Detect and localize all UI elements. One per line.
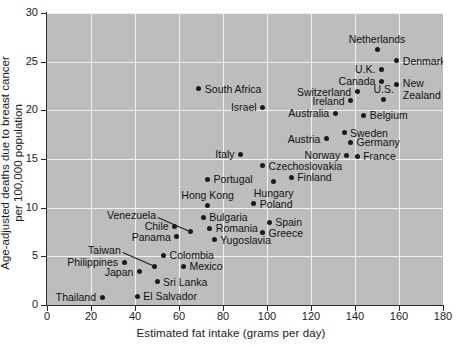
y-axis-title-line2: per 100,000 population xyxy=(12,104,24,222)
data-point-label: Spain xyxy=(275,217,302,228)
data-point xyxy=(342,130,347,135)
data-point-label: Colombia xyxy=(170,250,214,261)
y-tick xyxy=(41,256,46,257)
y-tick xyxy=(41,305,46,306)
data-point-label: U.S. xyxy=(373,83,393,94)
data-point xyxy=(100,295,105,300)
data-point xyxy=(324,136,329,141)
x-axis-title: Estimated fat intake (grams per day) xyxy=(0,327,462,339)
data-point xyxy=(375,47,380,52)
data-point xyxy=(260,163,265,168)
data-point xyxy=(379,79,384,84)
data-point xyxy=(207,226,212,231)
data-point-label: Taiwan xyxy=(88,245,121,256)
x-tick-label: 100 xyxy=(247,311,287,322)
data-point-label: New Zealand xyxy=(403,78,443,101)
data-point xyxy=(267,220,272,225)
data-point xyxy=(251,201,256,206)
data-point xyxy=(122,260,127,265)
x-tick-label: 0 xyxy=(27,311,67,322)
x-tick-label: 20 xyxy=(71,311,111,322)
data-point-label: Belgium xyxy=(370,110,408,121)
y-tick xyxy=(41,13,46,14)
data-point xyxy=(355,89,360,94)
gridline-horizontal xyxy=(47,62,443,63)
x-axis-line xyxy=(46,305,444,306)
data-point-label: Germany xyxy=(357,137,400,148)
data-point-label: Japan xyxy=(105,266,134,277)
data-point-label: El Salvador xyxy=(143,291,197,302)
scatter-chart-figure: ThailandEl SalvadorSri LankaJapanTaiwanP… xyxy=(0,0,462,347)
data-point xyxy=(394,82,399,87)
data-point xyxy=(355,154,360,159)
data-point xyxy=(161,253,166,258)
data-point-label: Sweden xyxy=(350,127,388,138)
data-point-label: Bulgaria xyxy=(209,212,248,223)
data-point-label: Romania xyxy=(216,223,258,234)
data-point xyxy=(379,67,384,72)
data-point-label: Czechoslovakia xyxy=(269,160,343,171)
data-point-label: France xyxy=(363,151,396,162)
data-point xyxy=(333,111,338,116)
data-point xyxy=(289,175,294,180)
data-point-label: Venezuela xyxy=(107,210,156,221)
x-tick-label: 160 xyxy=(379,311,419,322)
data-point-label: Poland xyxy=(260,198,293,209)
data-point xyxy=(201,215,206,220)
data-point-label: Philippines xyxy=(67,257,118,268)
data-point xyxy=(361,113,366,118)
data-point xyxy=(344,153,349,158)
data-point-label: Portugal xyxy=(214,174,253,185)
y-axis-title-line1: Age-adjusted deaths due to breast cancer xyxy=(0,56,11,270)
data-point-label: Canada xyxy=(339,76,376,87)
data-point-label: Panama xyxy=(132,231,171,242)
x-tick-label: 60 xyxy=(159,311,199,322)
data-point xyxy=(196,86,201,91)
data-point-label: Switzerland xyxy=(297,86,351,97)
data-point xyxy=(135,294,140,299)
data-point-label: Norway xyxy=(305,150,341,161)
data-point xyxy=(348,98,353,103)
data-point-label: Chile xyxy=(145,221,169,232)
data-point xyxy=(381,97,386,102)
data-point-label: Hong Kong xyxy=(181,189,234,200)
data-point-label: Australia xyxy=(288,108,329,119)
y-axis-title: Age-adjusted deaths due to breast cancer… xyxy=(0,13,25,313)
data-point xyxy=(137,269,142,274)
data-point-label: Denmark xyxy=(403,55,443,66)
data-point xyxy=(155,279,160,284)
data-point xyxy=(181,264,186,269)
x-tick-label: 140 xyxy=(335,311,375,322)
data-point xyxy=(212,237,217,242)
x-tick-label: 120 xyxy=(291,311,331,322)
y-tick xyxy=(41,62,46,63)
data-point xyxy=(271,179,276,184)
data-point xyxy=(238,152,243,157)
data-point-label: U.K. xyxy=(355,64,375,75)
y-tick xyxy=(41,110,46,111)
gridline-horizontal xyxy=(47,13,443,14)
data-point-label: Sri Lanka xyxy=(163,276,207,287)
data-point-label: Netherlands xyxy=(349,33,406,44)
data-point xyxy=(260,105,265,110)
data-point-label: Yugoslavia xyxy=(220,234,271,245)
data-point-label: Israel xyxy=(231,102,257,113)
data-point-label: Austria xyxy=(288,133,321,144)
y-tick xyxy=(41,159,46,160)
data-point-label: Hungary xyxy=(254,188,294,199)
data-point-label: Mexico xyxy=(189,261,222,272)
plot-area: ThailandEl SalvadorSri LankaJapanTaiwanP… xyxy=(47,13,443,305)
data-point xyxy=(348,140,353,145)
data-point-label: Finland xyxy=(297,172,331,183)
data-point-label: Greece xyxy=(269,227,303,238)
data-point-label: South Africa xyxy=(205,83,262,94)
x-tick-label: 180 xyxy=(423,311,462,322)
y-axis-line xyxy=(46,12,47,306)
data-point-label: Thailand xyxy=(56,292,96,303)
data-point-label: Italy xyxy=(215,149,234,160)
x-tick-label: 80 xyxy=(203,311,243,322)
data-point xyxy=(205,177,210,182)
y-tick xyxy=(41,208,46,209)
x-tick-label: 40 xyxy=(115,311,155,322)
